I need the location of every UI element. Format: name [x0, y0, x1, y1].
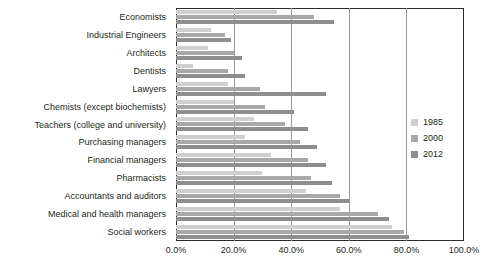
chart-screenshot: EconomistsIndustrial EngineersArchitects… [0, 0, 482, 269]
bar-2012 [176, 127, 308, 131]
category-axis-labels: EconomistsIndustrial EngineersArchitects… [0, 8, 170, 241]
bar-1985 [176, 207, 340, 211]
bar-group [176, 26, 464, 44]
category-label: Purchasing managers [78, 137, 166, 147]
bar-1985 [176, 46, 208, 50]
legend-item-2012[interactable]: 2012 [411, 150, 443, 159]
bar-1985 [176, 225, 392, 229]
bar-2012 [176, 181, 332, 185]
bar-group [176, 169, 464, 187]
x-tick-label: 20.0% [221, 245, 247, 255]
bar-group [176, 80, 464, 98]
bar-2012 [176, 20, 334, 24]
legend-swatch-icon [411, 151, 418, 158]
category-label: Lawyers [132, 84, 166, 94]
bar-2000 [176, 230, 404, 234]
bar-group [176, 187, 464, 205]
bar-2000 [176, 33, 225, 37]
bar-1985 [176, 28, 211, 32]
bar-2000 [176, 140, 300, 144]
bar-group [176, 44, 464, 62]
bar-group [176, 223, 464, 241]
bar-group [176, 8, 464, 26]
bar-group [176, 205, 464, 223]
x-tick-label: 40.0% [278, 245, 304, 255]
bar-1985 [176, 189, 306, 193]
legend-swatch-icon [411, 119, 418, 126]
bar-1985 [176, 117, 254, 121]
bar-2012 [176, 38, 231, 42]
chart-legend: 198520002012 [411, 118, 443, 159]
bar-2000 [176, 122, 285, 126]
x-tick-label: 60.0% [336, 245, 362, 255]
category-label: Financial managers [87, 155, 166, 165]
bar-2012 [176, 145, 317, 149]
bar-1985 [176, 10, 277, 14]
x-tick-label: 80.0% [394, 245, 420, 255]
bar-2012 [176, 217, 389, 221]
bar-2000 [176, 69, 228, 73]
bar-group [176, 62, 464, 80]
bar-1985 [176, 64, 193, 68]
bar-2000 [176, 194, 340, 198]
category-label: Architects [126, 48, 166, 58]
bar-2000 [176, 105, 265, 109]
bar-1985 [176, 82, 228, 86]
x-axis-labels: 0.0%20.0%40.0%60.0%80.0%100.0% [176, 245, 464, 261]
legend-label: 1985 [423, 118, 443, 127]
legend-item-1985[interactable]: 1985 [411, 118, 443, 127]
bar-2012 [176, 56, 242, 60]
bar-1985 [176, 135, 245, 139]
bar-1985 [176, 100, 234, 104]
bar-2012 [176, 235, 409, 239]
category-label: Social workers [107, 227, 166, 237]
category-label: Accountants and auditors [64, 191, 166, 201]
legend-label: 2000 [423, 134, 443, 143]
category-label: Industrial Engineers [86, 30, 166, 40]
bar-2012 [176, 74, 245, 78]
bar-2000 [176, 51, 234, 55]
bar-2000 [176, 158, 308, 162]
bar-group [176, 98, 464, 116]
x-tick-label: 100.0% [449, 245, 480, 255]
bar-2000 [176, 87, 260, 91]
category-label: Chemists (except biochemists) [43, 102, 166, 112]
category-label: Pharmacists [116, 173, 166, 183]
x-tick-label: 0.0% [166, 245, 187, 255]
bar-1985 [176, 171, 262, 175]
bar-2000 [176, 212, 378, 216]
bar-2012 [176, 199, 349, 203]
bar-2000 [176, 176, 311, 180]
category-label: Dentists [133, 66, 166, 76]
category-label: Medical and health managers [48, 209, 166, 219]
legend-item-2000[interactable]: 2000 [411, 134, 443, 143]
bar-2012 [176, 163, 326, 167]
bar-2000 [176, 15, 314, 19]
bar-2012 [176, 92, 326, 96]
legend-label: 2012 [423, 150, 443, 159]
category-label: Economists [119, 12, 166, 22]
bar-2012 [176, 110, 294, 114]
legend-swatch-icon [411, 135, 418, 142]
category-label: Teachers (college and university) [34, 120, 166, 130]
bar-1985 [176, 153, 271, 157]
